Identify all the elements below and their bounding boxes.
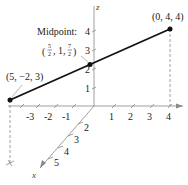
midpoint-title: Midpoint: — [37, 26, 77, 37]
coordinate-diagram: z x -3 -2 -1 1 2 3 4 1 2 3 4 2 3 4 5 (0,… — [0, 0, 188, 185]
svg-text:,: , — [53, 45, 56, 56]
svg-text:(: ( — [42, 46, 46, 58]
svg-text:): ) — [73, 46, 76, 58]
z-tick-label: 2 — [85, 64, 90, 75]
endpoint-b-dot — [168, 27, 173, 32]
x-axis-label: x — [31, 170, 36, 180]
x-tick-label: 5 — [54, 157, 59, 168]
z-tick-label: 4 — [85, 26, 90, 37]
svg-text:2: 2 — [68, 51, 71, 57]
midpoint-coordinates: ( 5 2 , 1 , 7 2 ) — [42, 43, 76, 58]
svg-text:5: 5 — [48, 43, 51, 49]
z-tick-label: 3 — [85, 45, 90, 56]
y-axis-arrow-icon — [176, 104, 183, 109]
x-axis-arrow-icon — [40, 160, 46, 168]
y-tick-label: 2 — [128, 111, 133, 122]
svg-text:7: 7 — [68, 43, 71, 49]
y-tick-label: -2 — [44, 111, 52, 122]
y-tick-label: -1 — [62, 111, 70, 122]
endpoint-a-dot — [8, 98, 13, 103]
y-tick-label: -3 — [26, 111, 34, 122]
midpoint-leader — [81, 56, 89, 63]
z-axis-label: z — [95, 2, 100, 12]
x-tick-label: 4 — [64, 146, 69, 157]
x-tick-label: 2 — [84, 122, 89, 133]
endpoint-a-label: (5, −2, 3) — [6, 71, 43, 83]
y-tick-label: 1 — [109, 111, 114, 122]
svg-text:,: , — [63, 45, 66, 56]
endpoint-b-label: (0, 4, 4) — [152, 11, 184, 23]
y-tick-label: 4 — [166, 111, 171, 122]
y-tick-label: 3 — [147, 111, 152, 122]
svg-text:2: 2 — [48, 51, 51, 57]
x-tick-label: 3 — [74, 134, 79, 145]
z-tick-label: 1 — [85, 83, 90, 94]
